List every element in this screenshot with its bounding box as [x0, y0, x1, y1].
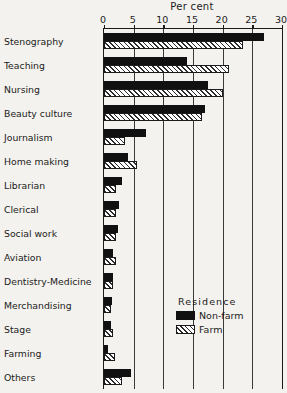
- bar-non-farm: [104, 81, 208, 89]
- bar-farm: [104, 113, 202, 121]
- x-tickmark: [134, 25, 135, 29]
- bar-farm: [104, 353, 115, 361]
- x-axis-tick-labels: 051015202530: [0, 14, 287, 26]
- x-tickmark: [282, 25, 283, 29]
- bar-farm: [104, 137, 125, 145]
- solid-black-swatch-icon: [176, 311, 195, 320]
- x-tickmark: [104, 25, 105, 29]
- x-tick-label: 10: [156, 14, 168, 25]
- x-tick-label: 0: [100, 14, 106, 25]
- bar-farm: [104, 89, 223, 97]
- legend-title: Residence: [176, 296, 244, 307]
- bar-non-farm: [104, 273, 113, 281]
- bar-non-farm: [104, 57, 187, 65]
- x-tick-label: 20: [216, 14, 228, 25]
- bar-non-farm: [104, 321, 111, 329]
- bar-farm: [104, 41, 243, 49]
- gridline: [252, 29, 253, 389]
- chart-page: Per cent 051015202530 Residence Non-farm…: [0, 0, 287, 393]
- bar-non-farm: [104, 201, 119, 209]
- bar-farm: [104, 209, 116, 217]
- bar-non-farm: [104, 33, 264, 41]
- legend-entry-non-farm: Non-farm: [176, 310, 244, 321]
- axis-title: Per cent: [103, 1, 281, 12]
- bar-non-farm: [104, 153, 128, 161]
- x-tickmark: [252, 25, 253, 29]
- x-tick-label: 15: [186, 14, 198, 25]
- bar-non-farm: [104, 225, 118, 233]
- hatched-swatch-icon: [176, 325, 195, 334]
- bar-farm: [104, 329, 113, 337]
- x-tickmark: [223, 25, 224, 29]
- x-tickmark: [193, 25, 194, 29]
- legend: Residence Non-farm Farm: [176, 296, 244, 337]
- bar-farm: [104, 161, 137, 169]
- bar-non-farm: [104, 177, 122, 185]
- x-tick-label: 25: [245, 14, 257, 25]
- bar-farm: [104, 377, 122, 385]
- x-tickmark: [163, 25, 164, 29]
- bar-non-farm: [104, 105, 205, 113]
- bar-non-farm: [104, 345, 108, 353]
- bar-farm: [104, 281, 113, 289]
- legend-label-non-farm: Non-farm: [199, 310, 244, 321]
- bar-non-farm: [104, 369, 131, 377]
- bar-farm: [104, 257, 116, 265]
- bar-farm: [104, 233, 116, 241]
- bar-farm: [104, 185, 116, 193]
- legend-label-farm: Farm: [199, 324, 222, 335]
- bar-non-farm: [104, 297, 112, 305]
- x-tick-label: 30: [275, 14, 287, 25]
- bar-non-farm: [104, 129, 146, 137]
- bar-farm: [104, 65, 229, 73]
- x-tick-label: 5: [130, 14, 136, 25]
- bar-non-farm: [104, 249, 113, 257]
- legend-entry-farm: Farm: [176, 324, 244, 335]
- bar-farm: [104, 305, 111, 313]
